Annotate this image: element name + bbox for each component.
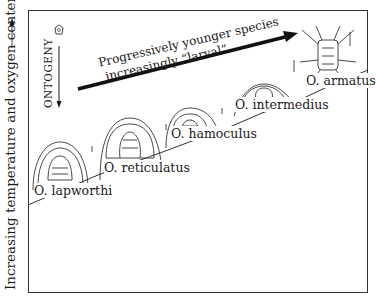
y-axis-label: Increasing temperature and oxygen conten…: [2, 0, 18, 290]
species-label-lapworthi: O. lapworthi: [34, 183, 112, 198]
species-label-hamoculus: O. hamoculus: [171, 126, 257, 141]
species-label-intermedius: O. intermedius: [235, 97, 329, 112]
protaspis-larva-icon: [55, 25, 63, 34]
ontogeny-label: ONTOGENY: [42, 38, 54, 108]
ontogeny-arrow-icon: [57, 46, 62, 108]
species-label-reticulatus: O. reticulatus: [104, 160, 190, 175]
species-label-armatus: O. armatus: [306, 73, 376, 88]
